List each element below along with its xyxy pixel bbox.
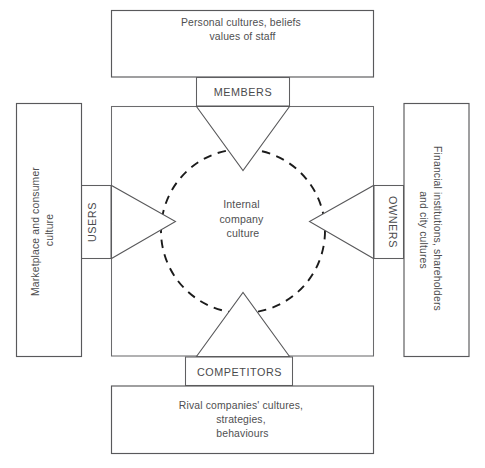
users-label-text: USERS — [86, 202, 98, 242]
owners-label-text: OWNERS — [387, 196, 399, 248]
competitors-label: COMPETITORS — [186, 357, 293, 386]
marketplace-consumer-culture-box: Marketplace and consumer culture — [17, 104, 82, 357]
members-label: MEMBERS — [197, 78, 290, 107]
stakeholder-culture-diagram: Personal cultures, beliefs values of sta… — [0, 0, 485, 468]
financial-institutions-box: Financial institutions, shareholders and… — [404, 104, 469, 357]
rival-companies-box: Rival companies' cultures, strategies, b… — [112, 386, 374, 454]
owners-label: OWNERS — [374, 186, 404, 259]
personal-cultures-box: Personal cultures, beliefs values of sta… — [112, 11, 374, 78]
diagram-canvas: Personal cultures, beliefs values of sta… — [0, 0, 485, 468]
members-label-text: MEMBERS — [214, 86, 272, 98]
competitors-label-text: COMPETITORS — [197, 366, 282, 378]
users-label: USERS — [82, 186, 112, 259]
